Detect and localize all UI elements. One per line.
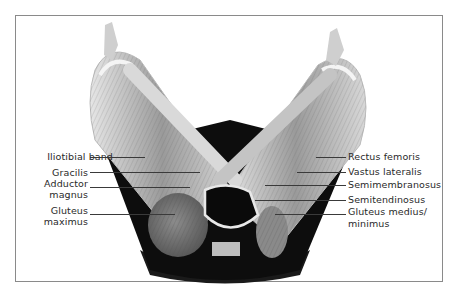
leader-line-iliotibial-band	[90, 157, 145, 158]
label-semimembranosus: Semimembranosus	[348, 179, 441, 190]
label-gracilis: Gracilis	[25, 167, 88, 178]
leader-line-gracilis	[90, 172, 200, 173]
leader-line-vastus-lateralis	[297, 172, 346, 173]
label-semitendinosus: Semitendinosus	[348, 194, 425, 205]
label-maximus: maximus	[25, 216, 88, 227]
leader-line-rectus-femoris	[316, 157, 346, 158]
label-rectus-femoris: Rectus femoris	[348, 151, 420, 162]
label-gluteus-medius: Gluteus medius/	[348, 206, 427, 217]
label-gluteus: Gluteus	[25, 205, 88, 216]
label-magnus: magnus	[25, 189, 88, 200]
leader-line-semimembranosus	[265, 185, 346, 186]
label-adductor: Adductor	[25, 178, 88, 189]
label-minimus: minimus	[348, 218, 389, 229]
leader-line-gluteus-maximus	[90, 214, 175, 215]
anatomy-illustration	[0, 0, 456, 295]
leader-line-gluteus-medius	[275, 214, 346, 215]
leader-line-adductor-magnus	[90, 187, 190, 188]
leader-line-semitendinosus	[255, 200, 346, 201]
label-vastus-lateralis: Vastus lateralis	[348, 166, 422, 177]
